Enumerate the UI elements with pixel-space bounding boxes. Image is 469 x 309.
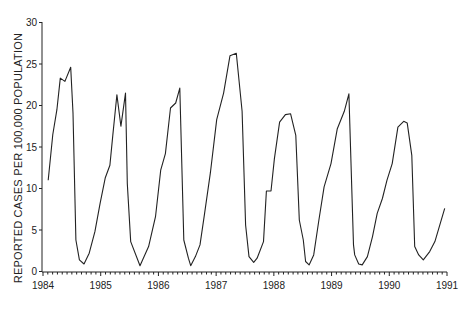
x-tick-label: 1988 bbox=[263, 280, 286, 291]
x-tick-label: 1991 bbox=[436, 280, 459, 291]
x-tick-label: 1989 bbox=[320, 280, 343, 291]
x-tick-label: 1985 bbox=[90, 280, 113, 291]
y-axis-title: REPORTED CASES PER 100,000 POPULATION bbox=[12, 33, 24, 283]
x-ticks: 19841985198619871988198919901991 bbox=[32, 272, 459, 291]
x-tick-label: 1987 bbox=[205, 280, 228, 291]
y-tick-label: 10 bbox=[26, 183, 38, 194]
y-tick-label: 5 bbox=[31, 225, 37, 236]
x-tick-label: 1990 bbox=[378, 280, 401, 291]
y-tick-label: 15 bbox=[26, 142, 38, 153]
y-tick-label: 0 bbox=[31, 266, 37, 277]
y-tick-label: 30 bbox=[26, 17, 38, 28]
x-tick-label: 1986 bbox=[147, 280, 170, 291]
line-chart: REPORTED CASES PER 100,000 POPULATION 05… bbox=[0, 0, 469, 309]
y-ticks: 051015202530 bbox=[26, 17, 42, 277]
y-tick-label: 20 bbox=[26, 100, 38, 111]
series-line-reported-cases bbox=[48, 53, 445, 266]
y-axis-title-group: REPORTED CASES PER 100,000 POPULATION bbox=[12, 33, 24, 283]
x-tick-label: 1984 bbox=[32, 280, 55, 291]
y-tick-label: 25 bbox=[26, 59, 38, 70]
